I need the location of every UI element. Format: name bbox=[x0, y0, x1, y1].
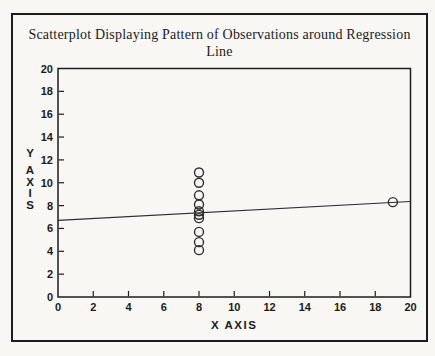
data-point bbox=[195, 191, 204, 200]
y-tick-label: 2 bbox=[47, 268, 53, 280]
x-tick-label: 0 bbox=[55, 301, 61, 313]
x-tick-label: 16 bbox=[334, 301, 346, 313]
y-axis-title-letter: A bbox=[26, 164, 34, 176]
x-tick-label: 4 bbox=[125, 301, 132, 313]
y-tick-label: 4 bbox=[47, 245, 54, 257]
data-point bbox=[195, 168, 204, 177]
x-tick-label: 12 bbox=[263, 301, 275, 313]
y-tick-label: 14 bbox=[41, 131, 54, 143]
y-tick-label: 10 bbox=[41, 177, 53, 189]
y-tick-label: 12 bbox=[41, 154, 53, 166]
y-axis-title-letter: I bbox=[28, 187, 31, 199]
regression-line bbox=[58, 201, 411, 220]
data-point bbox=[195, 227, 204, 236]
y-axis-title-letter: X bbox=[26, 176, 34, 188]
x-tick-label: 6 bbox=[161, 301, 167, 313]
figure-canvas: Scatterplot Displaying Pattern of Observ… bbox=[0, 0, 435, 356]
y-tick-label: 20 bbox=[41, 63, 53, 75]
x-tick-label: 10 bbox=[228, 301, 240, 313]
y-tick-label: 6 bbox=[47, 222, 53, 234]
x-tick-label: 14 bbox=[299, 301, 312, 313]
x-axis-title: X AXIS bbox=[211, 319, 257, 331]
y-tick-label: 8 bbox=[47, 200, 53, 212]
data-point bbox=[195, 178, 204, 187]
x-tick-label: 8 bbox=[196, 301, 202, 313]
scatterplot: 0246810121416182002468101214161820YAXISX… bbox=[0, 0, 435, 356]
x-tick-label: 20 bbox=[404, 301, 416, 313]
y-tick-label: 0 bbox=[47, 291, 53, 303]
y-tick-label: 18 bbox=[41, 85, 53, 97]
y-tick-label: 16 bbox=[41, 108, 53, 120]
plot-border bbox=[58, 69, 411, 298]
x-tick-label: 18 bbox=[369, 301, 381, 313]
y-axis-title-letter: Y bbox=[26, 147, 34, 159]
x-tick-label: 2 bbox=[90, 301, 96, 313]
y-axis-title-letter: S bbox=[26, 199, 34, 211]
